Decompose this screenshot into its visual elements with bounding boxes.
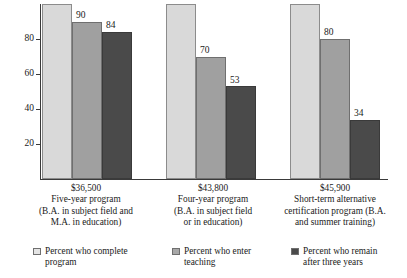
- bar-label-short-term-remain: 34: [354, 109, 364, 119]
- bar-group-five-year: 90 84: [40, 4, 164, 179]
- legend-label-complete-program-1: program: [45, 257, 151, 268]
- legend-label-complete-program-0: Percent who complete: [45, 246, 151, 257]
- y-tick-label-20: 20: [10, 139, 34, 149]
- category-line-short-term-1: certification program (B.A.: [263, 206, 407, 217]
- legend-label-enter-teaching-0: Percent who enter: [184, 246, 282, 257]
- legend-swatch-complete-program-icon: [33, 248, 41, 255]
- bar-label-short-term-enter: 80: [324, 28, 334, 38]
- y-tick-label-60: 60: [10, 69, 34, 79]
- y-tick-label-40: 40: [10, 104, 34, 114]
- x-axis-line: [40, 179, 388, 180]
- bar-four-year-remain[interactable]: [226, 86, 256, 179]
- bar-five-year-remain[interactable]: [102, 32, 132, 179]
- legend-item-complete-program[interactable]: Percent who complete program: [33, 246, 151, 269]
- bar-four-year-complete[interactable]: [166, 4, 196, 179]
- bar-short-term-complete[interactable]: [290, 4, 320, 179]
- bar-five-year-complete[interactable]: [42, 4, 72, 179]
- bar-label-four-year-remain: 53: [230, 76, 240, 86]
- category-line-short-term-0: Short-term alternative: [263, 194, 407, 205]
- legend-item-enter-teaching[interactable]: Percent who enter teaching: [172, 246, 282, 269]
- legend-label-remain-after-three-years-1: after three years: [303, 257, 407, 268]
- chart-legend: Percent who complete program Percent who…: [0, 246, 407, 276]
- bar-short-term-enter[interactable]: [320, 39, 350, 179]
- grouped-bar-chart: 20 40 60 80 90 84 70 53 80 3: [0, 0, 407, 278]
- legend-swatch-enter-teaching-icon: [172, 248, 180, 255]
- bar-short-term-remain[interactable]: [350, 120, 380, 180]
- bar-group-short-term: 80 34: [288, 4, 407, 179]
- bar-group-four-year: 70 53: [164, 4, 288, 179]
- category-cost-short-term: $45,900: [263, 183, 407, 194]
- bar-four-year-enter[interactable]: [196, 57, 226, 180]
- bar-label-five-year-remain: 84: [106, 21, 116, 31]
- bar-five-year-enter[interactable]: [72, 22, 102, 180]
- bar-label-five-year-enter: 90: [76, 11, 86, 21]
- legend-item-remain-after-three-years[interactable]: Percent who remain after three years: [291, 246, 407, 269]
- legend-label-enter-teaching-1: teaching: [184, 257, 282, 268]
- legend-label-remain-after-three-years-0: Percent who remain: [303, 246, 407, 257]
- bar-label-four-year-enter: 70: [200, 46, 210, 56]
- category-line-short-term-2: and summer training): [263, 217, 407, 228]
- y-tick-label-80: 80: [10, 34, 34, 44]
- plot-area: 20 40 60 80 90 84 70 53 80 3: [40, 4, 388, 179]
- legend-swatch-remain-after-three-years-icon: [291, 248, 299, 255]
- category-caption-short-term: $45,900 Short-term alternative certifica…: [263, 183, 407, 229]
